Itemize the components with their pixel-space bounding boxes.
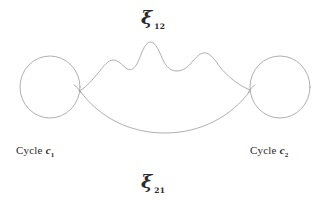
figure-root: ξ12 ξ21 Cyclec1 Cyclec2 — [0, 0, 327, 204]
cycle-node-right-circle — [250, 56, 310, 118]
cycle-label-left-subscript: 1 — [51, 151, 55, 159]
coupling-curve-top-xi12 — [79, 42, 250, 91]
cycle-label-right-word: Cycle — [250, 144, 277, 156]
cycle-label-left: Cyclec1 — [16, 145, 54, 159]
cycle-label-right-subscript: 2 — [285, 151, 289, 159]
cycle-label-left-word: Cycle — [16, 144, 43, 156]
coupling-label-top: ξ12 — [141, 8, 165, 30]
cycle-node-left-circle — [20, 56, 80, 118]
coupling-curve-bottom-xi21 — [80, 91, 250, 133]
xi-subscript-top: 12 — [154, 22, 165, 31]
xi-symbol-top: ξ — [141, 6, 152, 28]
xi-subscript-bottom: 21 — [154, 186, 165, 195]
junction-right-mark — [248, 85, 255, 93]
coupling-label-bottom: ξ21 — [141, 172, 165, 194]
xi-symbol-bottom: ξ — [141, 170, 152, 192]
cycle-label-right: Cyclec2 — [250, 145, 288, 159]
